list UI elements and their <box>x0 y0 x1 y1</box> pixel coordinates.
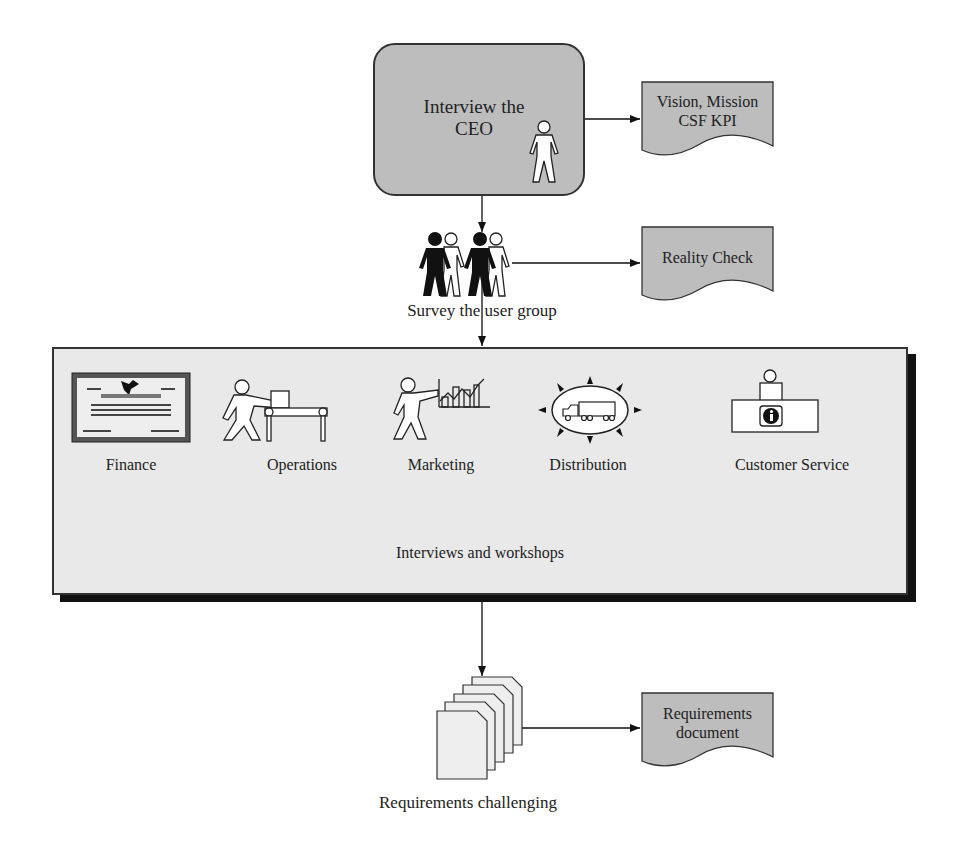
department-operations: Operations <box>227 456 377 474</box>
department-finance: Finance <box>56 456 206 474</box>
requirements-doc-line-2: document <box>642 723 773 742</box>
reality-check-doc: Reality Check <box>642 248 773 267</box>
presenter-chart-icon <box>392 375 492 441</box>
ceo-label-line-1: Interview the <box>373 96 585 118</box>
ceo-person-icon <box>527 120 561 184</box>
requirements-document: Requirements document <box>642 704 773 742</box>
certificate-icon <box>71 372 191 443</box>
requirements-doc-line-1: Requirements <box>642 704 773 723</box>
truck-distribution-icon <box>537 373 643 447</box>
requirements-challenging-label: Requirements challenging <box>340 793 596 813</box>
department-customer-service: Customer Service <box>712 456 872 474</box>
vision-doc-line-2: CSF KPI <box>642 111 773 130</box>
interviews-workshops-label: Interviews and workshops <box>52 544 908 562</box>
info-desk-icon <box>725 368 821 442</box>
reality-doc-line-1: Reality Check <box>642 248 773 267</box>
conveyor-worker-icon <box>220 378 335 442</box>
department-marketing: Marketing <box>366 456 516 474</box>
department-distribution: Distribution <box>513 456 663 474</box>
vision-mission-doc: Vision, Mission CSF KPI <box>642 92 773 130</box>
survey-user-group-label: Survey the user group <box>360 301 604 321</box>
vision-doc-line-1: Vision, Mission <box>642 92 773 111</box>
stacked-documents-icon <box>435 675 527 783</box>
user-group-icon <box>418 230 516 298</box>
